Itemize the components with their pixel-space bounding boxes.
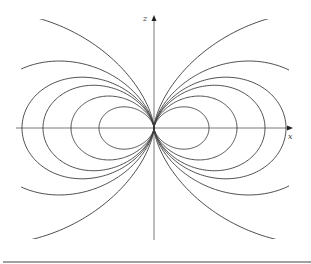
x-axis-arrow-icon bbox=[287, 126, 293, 131]
dipole-field-diagram: x z bbox=[0, 0, 311, 264]
z-axis-arrow-icon bbox=[152, 15, 157, 21]
x-axis-label: x bbox=[288, 132, 293, 141]
z-axis-label: z bbox=[142, 14, 148, 23]
